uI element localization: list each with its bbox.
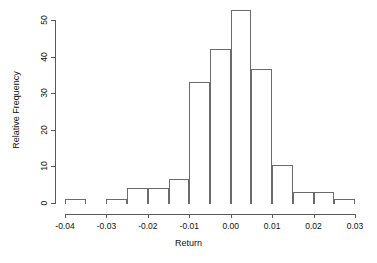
x-axis-title: Return [0,238,377,248]
x-axis-tick-label: 0.02 [294,221,334,231]
y-axis-tick-label: 0 [39,197,49,209]
x-axis-tick-label: -0.01 [169,221,209,231]
y-axis-title: Relative Frequency [11,55,21,165]
histogram-bar [231,10,252,204]
histogram-bar [189,82,210,204]
histogram-bar [210,49,231,204]
histogram-bar [314,192,335,204]
y-axis-tick [51,203,55,204]
y-axis-line [55,20,56,204]
y-axis-tick-label: 50 [39,14,49,26]
x-axis-tick-label: 0.03 [335,221,375,231]
x-axis-tick [272,214,273,218]
y-axis-tick-label: 30 [39,87,49,99]
histogram-figure: -0.04-0.03-0.02-0.010.000.010.020.030102… [0,0,377,263]
histogram-bar [65,199,86,204]
histogram-bar [251,69,272,204]
x-axis-tick-label: 0.01 [252,221,292,231]
y-axis-tick [51,20,55,21]
x-axis-tick-label: -0.04 [45,221,85,231]
histogram-bar [148,188,169,204]
x-axis-tick [355,214,356,218]
x-axis-tick [106,214,107,218]
y-axis-tick-label: 40 [39,51,49,63]
x-axis-tick-label: 0.00 [211,221,251,231]
y-axis-tick [51,57,55,58]
x-axis-tick [148,214,149,218]
x-axis-line [65,214,355,215]
y-axis-tick [51,93,55,94]
x-axis-tick [314,214,315,218]
histogram-bar [272,165,293,204]
y-axis-tick [51,166,55,167]
x-axis-tick [189,214,190,218]
plot-area: -0.04-0.03-0.02-0.010.000.010.020.030102… [0,0,377,263]
x-axis-tick [231,214,232,218]
histogram-bar [334,199,355,204]
x-axis-tick-label: -0.03 [86,221,126,231]
x-axis-tick [65,214,66,218]
y-axis-tick-label: 10 [39,160,49,172]
histogram-bar [169,179,190,204]
histogram-bar [293,192,314,204]
x-axis-tick-label: -0.02 [128,221,168,231]
y-axis-tick-label: 20 [39,124,49,136]
histogram-bar [106,199,127,204]
histogram-bar [127,188,148,204]
y-axis-tick [51,130,55,131]
